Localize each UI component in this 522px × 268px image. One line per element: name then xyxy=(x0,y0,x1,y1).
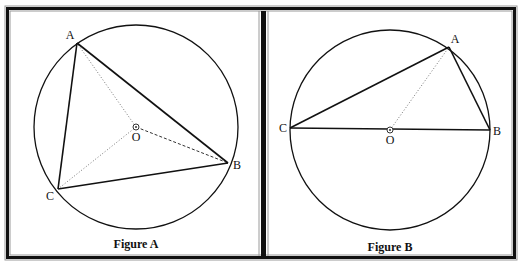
vertex-label-a: A xyxy=(66,28,75,42)
side-BC xyxy=(58,163,228,189)
vertex-label-b: B xyxy=(233,158,241,172)
vertex-label-a: A xyxy=(451,32,460,46)
vertex-label-c: C xyxy=(46,189,54,203)
panel-divider xyxy=(261,11,266,256)
side-CA xyxy=(290,47,449,128)
vertex-label-c: C xyxy=(279,121,287,135)
radius-OA-dotted xyxy=(390,47,449,130)
figure-b-panel: OABCFigure B xyxy=(279,30,501,254)
center-label: O xyxy=(386,133,395,147)
radius-OA-dotted xyxy=(77,43,136,127)
figure-a-panel: OABCFigure A xyxy=(34,25,241,251)
figure-caption: Figure A xyxy=(114,237,159,251)
radius-OB-dashed xyxy=(136,127,228,163)
vertex-label-b: B xyxy=(493,124,501,138)
figure-caption: Figure B xyxy=(368,240,413,254)
diagram-stage: OABCFigure A OABCFigure B xyxy=(0,0,522,268)
side-CA xyxy=(58,43,77,189)
geometry-figures: OABCFigure A OABCFigure B xyxy=(0,0,522,268)
center-point-dot xyxy=(389,129,391,131)
center-label: O xyxy=(132,130,141,144)
side-AB xyxy=(77,43,228,163)
center-point-dot xyxy=(135,126,137,128)
radius-OC-dotted xyxy=(58,127,136,189)
side-AB xyxy=(449,47,490,130)
